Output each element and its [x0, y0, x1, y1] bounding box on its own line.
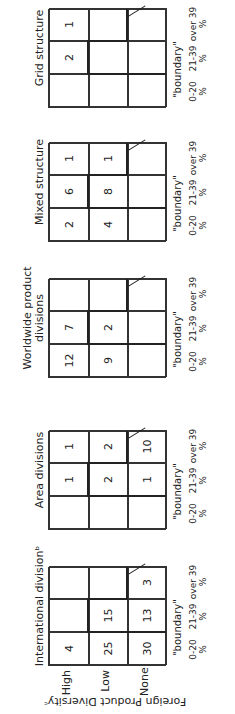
matrix-cell — [89, 566, 128, 599]
matrix-cell — [89, 8, 128, 41]
boundary-label: "boundary" — [172, 175, 183, 232]
x-label-text: over 39 — [188, 141, 198, 175]
matrix-cell: 4 — [49, 632, 89, 665]
x-label-21-39: 21-39% — [188, 42, 208, 75]
x-label-text: 21-39 — [188, 315, 198, 341]
panel-p4: Grid structure 21 "boundary" 0-20% 21-39… — [0, 0, 235, 108]
percent-sign: % — [198, 578, 208, 587]
rotated-figure: Foreign Product Diversityᶜ High Low None… — [0, 0, 235, 714]
boundary-line — [87, 310, 128, 312]
row-label-low: Low — [99, 670, 112, 696]
boundary-line — [87, 176, 89, 209]
x-label-0-20: 0-20% — [188, 497, 208, 530]
matrix-cell: 8 — [89, 175, 128, 208]
matrix-cell: 1 — [49, 463, 89, 496]
matrix-cell — [128, 344, 167, 377]
percent-sign: % — [198, 476, 208, 485]
x-label-over-39: over 39% — [188, 138, 208, 178]
x-label-over-39: over 39% — [188, 426, 208, 466]
boundary-line — [87, 40, 128, 42]
x-label-21-39: 21-39% — [188, 312, 208, 345]
boundary-line — [87, 343, 166, 345]
matrix-cell: 15 — [89, 599, 128, 632]
percent-sign: % — [198, 442, 208, 451]
matrix-cell — [128, 175, 167, 208]
matrix-cell — [89, 74, 128, 107]
panel-p1: Area divisions 1122110 "boundary" 0-20% … — [0, 400, 235, 530]
y-axis-title: Foreign Product Diversityᶜ — [30, 692, 200, 708]
boundary-line — [87, 631, 166, 633]
row-label-high: High — [60, 670, 73, 696]
matrix-cell: 1 — [89, 142, 128, 175]
x-label-text: 0-20 — [188, 503, 198, 523]
x-label-over-39: over 39% — [188, 4, 208, 44]
matrix-cell — [89, 496, 128, 529]
matrix-cell: 2 — [89, 430, 128, 463]
boundary-label: "boundary" — [172, 599, 183, 656]
matrix-cell: 1 — [49, 8, 89, 41]
boundary-line — [87, 42, 89, 75]
percent-sign: % — [198, 324, 208, 333]
matrix-cell: 2 — [89, 463, 128, 496]
matrix-cell: 2 — [49, 208, 89, 241]
x-label-text: over 39 — [188, 277, 198, 311]
percent-sign: % — [198, 509, 208, 518]
x-label-text: 21-39 — [188, 467, 198, 493]
percent-sign: % — [198, 221, 208, 230]
panel-p3: Mixed structure 261481 "boundary" 0-20% … — [0, 112, 235, 242]
boundary-line — [87, 174, 128, 176]
matrix-cell — [128, 74, 167, 107]
matrix-grid: 21 — [48, 9, 166, 108]
matrix-grid: 1122110 — [48, 431, 166, 530]
percent-sign: % — [198, 612, 208, 621]
percent-sign: % — [198, 20, 208, 29]
matrix-cell — [128, 496, 167, 529]
matrix-cell: 1 — [49, 142, 89, 175]
boundary-line — [87, 207, 166, 209]
matrix-grid: 261481 — [48, 143, 166, 242]
matrix-cell: 30 — [128, 632, 167, 665]
matrix-cell: 2 — [49, 41, 89, 74]
matrix-cell: 7 — [49, 311, 89, 344]
percent-sign: % — [198, 54, 208, 63]
percent-sign: % — [198, 645, 208, 654]
boundary-line — [87, 598, 128, 600]
percent-sign: % — [198, 357, 208, 366]
x-label-0-20: 0-20% — [188, 633, 208, 666]
matrix-cell: 25 — [89, 632, 128, 665]
matrix-grid: 4251530133 — [48, 567, 166, 666]
panel-title: Mixed structure — [4, 112, 46, 252]
x-label-0-20: 0-20% — [188, 345, 208, 378]
matrix-cell: 2 — [89, 311, 128, 344]
x-label-text: 21-39 — [188, 45, 198, 71]
boundary-label: "boundary" — [172, 463, 183, 520]
x-label-over-39: over 39% — [188, 274, 208, 314]
matrix-cell: 9 — [89, 344, 128, 377]
boundary-line — [87, 600, 89, 633]
panel-p0: International divisionᵇ 4251530133 "boun… — [0, 536, 235, 666]
boundary-line — [87, 73, 166, 75]
row-label-none: None — [138, 670, 151, 696]
matrix-cell — [89, 41, 128, 74]
boundary-line — [126, 431, 128, 464]
panel-title: Area divisions — [4, 400, 46, 540]
percent-sign: % — [198, 290, 208, 299]
matrix-cell — [89, 278, 128, 311]
x-label-text: 21-39 — [188, 603, 198, 629]
x-label-21-39: 21-39% — [188, 176, 208, 209]
x-label-text: over 39 — [188, 7, 198, 41]
matrix-cell — [49, 278, 89, 311]
boundary-line — [126, 279, 128, 312]
x-label-0-20: 0-20% — [188, 209, 208, 242]
x-label-over-39: over 39% — [188, 562, 208, 602]
panel-p2: Worldwide product divisions 12792 "bound… — [0, 248, 235, 378]
boundary-line — [87, 464, 89, 497]
percent-sign: % — [198, 87, 208, 96]
x-label-21-39: 21-39% — [188, 600, 208, 633]
x-label-21-39: 21-39% — [188, 464, 208, 497]
panel-title: International divisionᵇ — [4, 536, 46, 676]
boundary-label: "boundary" — [172, 311, 183, 368]
x-label-text: 0-20 — [188, 81, 198, 101]
matrix-cell — [49, 496, 89, 529]
x-label-text: over 39 — [188, 565, 198, 599]
